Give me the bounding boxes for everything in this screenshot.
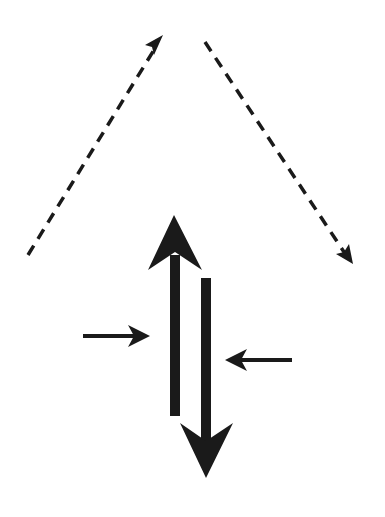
left-arrow-shaft [235,358,292,362]
up-arrow-shaft [170,255,180,416]
right-arrow-shaft [83,334,139,338]
down-arrow-shaft [201,278,211,448]
diagram-canvas [0,0,385,517]
